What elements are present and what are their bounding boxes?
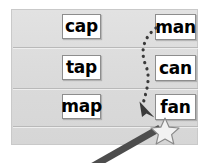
word-card-cap[interactable]: cap [62,14,101,39]
row-divider-1 [13,47,198,49]
word-card-can[interactable]: can [155,55,196,81]
word-card-tap[interactable]: tap [62,55,101,80]
row-divider-2 [13,88,198,90]
row-divider-3 [13,126,198,128]
word-card-fan[interactable]: fan [155,94,196,120]
word-card-map[interactable]: map [62,94,101,119]
worksheet-stage: cap tap map man can fan [0,0,208,163]
word-card-man[interactable]: man [155,14,196,40]
